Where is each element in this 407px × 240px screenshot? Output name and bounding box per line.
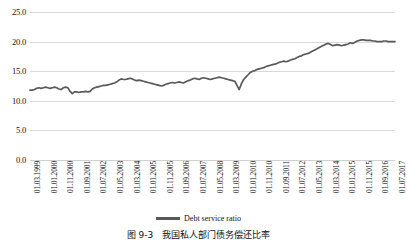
x-axis-tick-label: 01.03.1999 xyxy=(33,161,42,193)
y-axis-tick-label: 25.0 xyxy=(12,7,26,17)
x-axis-tick-label: 01.03.2014 xyxy=(332,161,341,193)
x-axis-tick-label: 01.01.2010 xyxy=(249,161,258,193)
x-axis-tick-label: 01.07.2002 xyxy=(99,161,108,193)
y-axis-labels: 0.05.010.015.020.025.0 xyxy=(0,0,28,170)
series-debt-service-ratio xyxy=(30,12,395,160)
x-axis-tick-label: 01.11.2010 xyxy=(265,161,274,193)
x-axis-tick-label: 01.07.2017 xyxy=(398,161,407,193)
chart-legend: Debt service ratio xyxy=(0,214,397,223)
x-axis-tick-label: 01.05.2013 xyxy=(315,161,324,193)
y-axis-tick-label: 0.0 xyxy=(16,155,26,165)
x-axis-tick-label: 01.07.2012 xyxy=(298,161,307,193)
x-axis-tick-label: 01.09.2011 xyxy=(282,161,291,193)
x-axis-tick-label: 01.03.2009 xyxy=(232,161,241,193)
figure-caption: 图 9-3 我国私人部门债务偿还比率 xyxy=(0,228,397,240)
x-axis-tick-label: 01.01.2000 xyxy=(50,161,59,193)
x-axis-tick-label: 01.01.2005 xyxy=(149,161,158,193)
y-axis-tick-label: 5.0 xyxy=(16,125,26,135)
y-axis-tick-label: 10.0 xyxy=(12,96,26,106)
x-axis-tick-label: 01.05.2008 xyxy=(216,161,225,193)
legend-line-swatch xyxy=(156,217,180,220)
x-axis-labels: 01.03.199901.01.200001.11.200001.09.2001… xyxy=(30,161,395,213)
x-axis-tick-label: 01.09.2001 xyxy=(83,161,92,193)
y-axis-tick-label: 20.0 xyxy=(12,37,26,47)
x-axis-tick-label: 01.11.2015 xyxy=(365,161,374,193)
x-axis-tick-label: 01.09.2006 xyxy=(182,161,191,193)
x-axis-tick-label: 01.03.2004 xyxy=(133,161,142,193)
x-axis-tick-label: 01.11.2000 xyxy=(66,161,75,193)
chart-gridlines-and-series xyxy=(30,12,395,160)
x-axis-tick-label: 01.07.2007 xyxy=(199,161,208,193)
x-axis-tick-label: 01.11.2005 xyxy=(166,161,175,193)
x-axis-tick-label: 01.01.2015 xyxy=(348,161,357,193)
x-axis-tick-label: 01.09.2016 xyxy=(381,161,390,193)
y-axis-tick-label: 15.0 xyxy=(12,66,26,76)
x-axis-tick-label: 01.05.2003 xyxy=(116,161,125,193)
legend-label: Debt service ratio xyxy=(184,214,241,223)
